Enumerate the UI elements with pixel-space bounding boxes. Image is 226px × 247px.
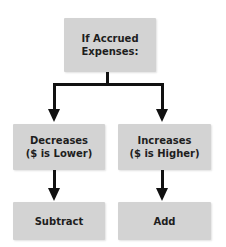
decreases-line2: ($ is Lower)	[26, 147, 93, 160]
root-node-box: If Accrued Expenses:	[64, 18, 156, 72]
decreases-node-box: Decreases ($ is Lower)	[13, 124, 105, 170]
increases-node-box: Increases ($ is Higher)	[118, 124, 211, 170]
left-lower-connector	[53, 170, 56, 190]
increases-node-label: Increases ($ is Higher)	[129, 134, 199, 160]
subtract-node-box: Subtract	[13, 202, 105, 240]
decreases-node-label: Decreases ($ is Lower)	[26, 134, 93, 160]
subtract-label: Subtract	[35, 215, 84, 228]
root-node-line1: If Accrued	[81, 32, 138, 45]
add-label: Add	[153, 215, 175, 228]
right-branch-connector	[161, 83, 164, 111]
add-node-box: Add	[118, 202, 211, 240]
left-branch-arrow-icon	[48, 109, 60, 122]
increases-line1: Increases	[129, 134, 199, 147]
left-branch-connector	[53, 83, 56, 111]
right-lower-connector	[161, 170, 164, 190]
horizontal-split-connector	[53, 83, 164, 86]
right-lower-arrow-icon	[156, 188, 168, 201]
left-lower-arrow-icon	[48, 188, 60, 201]
right-branch-arrow-icon	[156, 109, 168, 122]
decreases-line1: Decreases	[26, 134, 93, 147]
root-node-label: If Accrued Expenses:	[81, 32, 138, 58]
root-node-line2: Expenses:	[81, 45, 138, 58]
increases-line2: ($ is Higher)	[129, 147, 199, 160]
